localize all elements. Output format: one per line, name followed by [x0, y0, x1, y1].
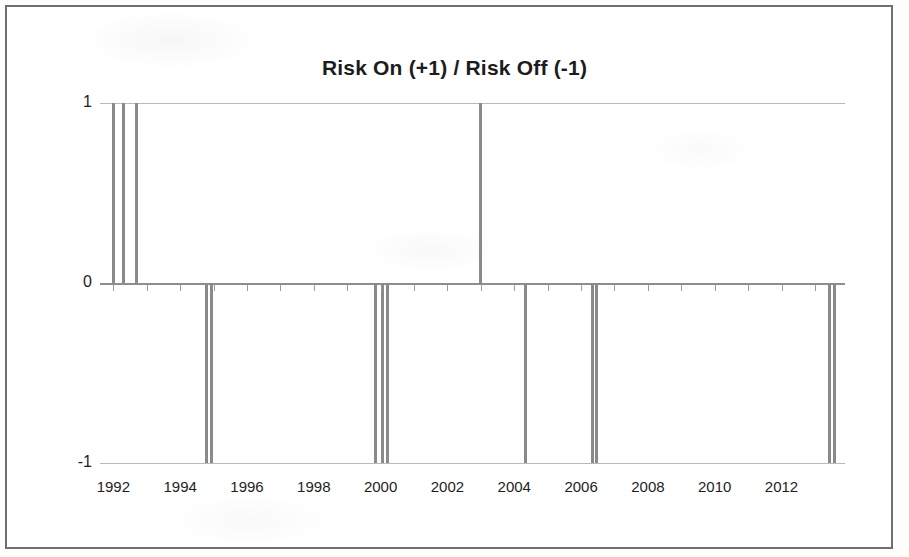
x-axis-tick: [782, 285, 783, 291]
x-axis-tick: [481, 285, 482, 291]
bar: [112, 103, 115, 283]
x-axis-ticks: [100, 285, 845, 292]
x-axis-tick: [514, 285, 515, 291]
x-axis-tick: [280, 285, 281, 291]
gridline-y--1: [100, 463, 845, 464]
x-tick-label: 2004: [484, 478, 544, 495]
x-axis-tick: [748, 285, 749, 291]
bar: [135, 103, 138, 283]
x-tick-label: 1994: [150, 478, 210, 495]
bar: [524, 283, 527, 463]
bar: [479, 103, 482, 283]
x-axis-tick: [581, 285, 582, 291]
x-axis-tick: [214, 285, 215, 291]
x-axis-labels: 1992199419961998200020022004200620082010…: [0, 478, 909, 502]
y-tick-label: 0: [58, 273, 92, 291]
x-axis-tick: [447, 285, 448, 291]
x-axis-tick: [247, 285, 248, 291]
x-axis-tick: [715, 285, 716, 291]
x-tick-label: 2002: [417, 478, 477, 495]
x-axis-tick: [347, 285, 348, 291]
bar: [374, 283, 377, 463]
bar: [386, 283, 389, 463]
x-axis-tick: [681, 285, 682, 291]
bar: [833, 283, 836, 463]
gridline-y-1: [100, 103, 845, 104]
x-axis-tick: [180, 285, 181, 291]
x-tick-label: 2008: [618, 478, 678, 495]
bar: [122, 103, 125, 283]
x-axis-tick: [381, 285, 382, 291]
x-tick-label: 2012: [752, 478, 812, 495]
x-tick-label: 2010: [685, 478, 745, 495]
bar: [210, 283, 213, 463]
x-tick-label: 2000: [351, 478, 411, 495]
chart-screenshot: Risk On (+1) / Risk Off (-1) 10-1 199219…: [0, 0, 909, 557]
x-axis-tick: [614, 285, 615, 291]
x-axis-tick: [414, 285, 415, 291]
y-axis-labels: 10-1: [52, 103, 92, 463]
x-axis-tick: [648, 285, 649, 291]
y-tick-label: -1: [58, 453, 92, 471]
plot-area: [100, 103, 845, 463]
chart-title: Risk On (+1) / Risk Off (-1): [0, 56, 909, 80]
x-tick-label: 1996: [217, 478, 277, 495]
x-axis-tick: [815, 285, 816, 291]
bar: [381, 283, 384, 463]
x-tick-label: 1998: [284, 478, 344, 495]
bar: [595, 283, 598, 463]
y-tick-label: 1: [58, 93, 92, 111]
x-axis-tick: [147, 285, 148, 291]
x-axis-tick: [113, 285, 114, 291]
x-axis-tick: [314, 285, 315, 291]
bar: [828, 283, 831, 463]
x-axis-tick: [548, 285, 549, 291]
bar: [205, 283, 208, 463]
x-tick-label: 1992: [83, 478, 143, 495]
x-tick-label: 2006: [551, 478, 611, 495]
